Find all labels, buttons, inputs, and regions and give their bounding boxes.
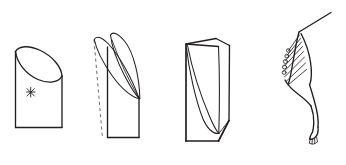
limb-upper-shaft [299,13,331,33]
cylinder-cut-ellipse-near-rim [16,52,63,83]
figure-container [0,0,346,165]
claw-tick-4 [317,137,318,142]
feather-barb-1 [289,35,300,51]
cylinder-cut-ellipse-far-rim [16,47,63,76]
prism-top-front-edge [186,39,216,45]
feather-barb-2 [287,39,301,56]
barb-tip-node-2 [285,54,289,58]
line-drawing-canvas [0,0,346,165]
limb-foot-heel [310,132,313,139]
panel-cut-cylinder [16,47,63,128]
prism-right-back-edge [229,46,230,121]
prism-slant-edge [219,121,230,142]
prism-top-receding-edge [216,39,230,46]
panel-limb-with-barbs [282,13,331,145]
prism-twist-secondary-curve [219,47,220,134]
claw-base-line [309,142,317,144]
asterisk-mark [27,88,36,98]
prism-inner-top-edge [186,44,219,47]
panel-wedge-prism [186,39,230,142]
limb-shank-posterior [311,106,314,132]
panel-twisted-blade [94,33,140,138]
construction-dashed-edge [94,40,103,139]
